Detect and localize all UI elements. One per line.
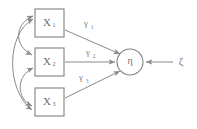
path-label-gamma1: γ	[83, 18, 88, 28]
covariance-arc-x1-x2	[19, 16, 33, 55]
covariance-arcs-group	[13, 16, 33, 110]
covariance-arc-x2-x3	[20, 68, 33, 106]
node-label-x1: X	[43, 16, 51, 28]
node-label-eta: η	[127, 55, 132, 66]
path-x1-to-eta	[65, 30, 120, 54]
node-label-x2: X	[43, 55, 51, 67]
path-x3-to-eta	[65, 71, 120, 98]
node-sublabel-x3: 3	[53, 101, 56, 107]
path-sublabel-gamma3: 3	[86, 78, 89, 84]
diagram-svg: X 1 X 2 X 3 η ζ γ 1 γ 2 γ 3	[0, 0, 197, 129]
path-label-gamma3: γ	[78, 72, 83, 82]
node-label-x3: X	[43, 95, 51, 107]
node-sublabel-x1: 1	[53, 22, 56, 28]
path-sublabel-gamma1: 1	[91, 24, 94, 30]
path-label-gamma2: γ	[85, 47, 90, 57]
path-sublabel-gamma2: 2	[93, 53, 96, 59]
node-label-zeta: ζ	[179, 55, 184, 68]
covariance-arc-x1-x3	[13, 19, 33, 110]
path-labels-group: γ 1 γ 2 γ 3	[78, 18, 96, 84]
path-diagram-canvas: X 1 X 2 X 3 η ζ γ 1 γ 2 γ 3	[0, 0, 197, 129]
node-sublabel-x2: 2	[53, 61, 56, 67]
